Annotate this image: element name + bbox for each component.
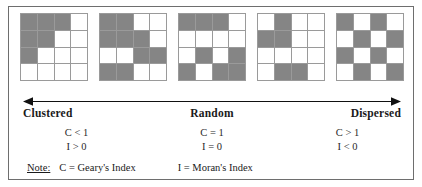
grid-cell-empty xyxy=(371,31,388,48)
grid-clustered-1 xyxy=(20,13,88,81)
grid-cell-filled xyxy=(387,31,404,48)
grid-cell-filled xyxy=(100,31,117,48)
grid-cell-empty xyxy=(55,31,72,48)
formula-row-geary: C < 1 C = 1 C > 1 xyxy=(9,127,415,141)
formula-row-moran: I > 0 I = 0 I < 0 xyxy=(9,141,415,155)
grid-cell-empty xyxy=(258,64,275,81)
grid-cell-empty xyxy=(308,64,325,81)
grid-cell-empty xyxy=(292,14,309,31)
grid-cell-empty xyxy=(213,31,230,48)
grid-cell-filled xyxy=(179,14,196,31)
double-headed-arrow xyxy=(23,96,401,107)
grid-cell-filled xyxy=(213,64,230,81)
grid-cell-filled xyxy=(196,48,213,65)
grid-cell-empty xyxy=(71,64,88,81)
grid-cell-empty xyxy=(71,31,88,48)
grid-cell-empty xyxy=(213,48,230,65)
grid-cell-empty xyxy=(354,14,371,31)
grid-cell-filled xyxy=(100,64,117,81)
grid-cell-empty xyxy=(337,31,354,48)
grid-cell-empty xyxy=(134,64,151,81)
right-arrowhead xyxy=(391,97,401,106)
grid-cell-empty xyxy=(150,14,167,31)
grid-cell-empty xyxy=(179,48,196,65)
grid-cell-empty xyxy=(179,31,196,48)
grid-cell-filled xyxy=(117,31,134,48)
grid-cell-filled xyxy=(354,31,371,48)
grid-cell-empty xyxy=(71,14,88,31)
grid-cell-filled xyxy=(337,14,354,31)
grid-cell-empty xyxy=(354,48,371,65)
axis-label-row: Clustered Random Dispersed xyxy=(9,107,415,122)
grid-cell-empty xyxy=(55,64,72,81)
figure-frame: Clustered Random Dispersed C < 1 C = 1 C… xyxy=(8,6,414,180)
note-label: Note: xyxy=(27,162,50,173)
grid-random xyxy=(178,13,246,81)
grid-cell-empty xyxy=(196,64,213,81)
note-moran-definition: I = Moran's Index xyxy=(178,162,253,173)
grid-cell-empty xyxy=(117,48,134,65)
grid-cell-empty xyxy=(150,31,167,48)
grid-cell-empty xyxy=(196,31,213,48)
grid-clustered-2 xyxy=(99,13,167,81)
grid-cell-filled xyxy=(275,31,292,48)
grid-cell-filled xyxy=(134,31,151,48)
grid-cell-empty xyxy=(308,31,325,48)
grid-cell-filled xyxy=(371,48,388,65)
grid-cell-empty xyxy=(292,48,309,65)
grid-cell-filled xyxy=(117,14,134,31)
label-dispersed: Dispersed xyxy=(351,107,401,119)
grid-cell-empty xyxy=(275,48,292,65)
left-arrowhead xyxy=(23,97,33,106)
grid-cell-filled xyxy=(196,14,213,31)
grid-cell-filled xyxy=(337,48,354,65)
grid-cell-filled xyxy=(387,64,404,81)
note-row: Note: C = Geary's Index I = Moran's Inde… xyxy=(27,159,407,175)
grid-cell-empty xyxy=(371,64,388,81)
grid-cell-filled xyxy=(150,48,167,65)
grid-cell-filled xyxy=(100,14,117,31)
grid-cell-filled xyxy=(55,14,72,31)
grid-cell-filled xyxy=(179,64,196,81)
grid-cell-filled xyxy=(134,48,151,65)
grid-cell-filled xyxy=(354,64,371,81)
grid-cell-empty xyxy=(308,48,325,65)
grid-dispersed-1 xyxy=(257,13,325,81)
grid-cell-empty xyxy=(387,48,404,65)
grid-cell-filled xyxy=(117,64,134,81)
grid-cell-empty xyxy=(229,31,246,48)
formula-dispersed-c: C > 1 xyxy=(280,127,415,138)
grid-cell-empty xyxy=(134,14,151,31)
grid-cell-empty xyxy=(258,14,275,31)
grids-row xyxy=(9,13,415,87)
grid-cell-empty xyxy=(229,14,246,31)
grid-cell-empty xyxy=(337,64,354,81)
grid-cell-empty xyxy=(387,14,404,31)
grid-cell-empty xyxy=(258,48,275,65)
grid-cell-filled xyxy=(229,64,246,81)
grid-cell-filled xyxy=(371,14,388,31)
grid-cell-filled xyxy=(258,31,275,48)
grid-cell-filled xyxy=(38,31,55,48)
grid-cell-filled xyxy=(21,48,38,65)
grid-cell-filled xyxy=(38,14,55,31)
note-geary-definition: C = Geary's Index xyxy=(59,162,135,173)
grid-cell-filled xyxy=(229,48,246,65)
grid-cell-empty xyxy=(308,14,325,31)
grid-cell-filled xyxy=(21,31,38,48)
grid-cell-empty xyxy=(292,31,309,48)
grid-cell-empty xyxy=(100,48,117,65)
formula-dispersed-i: I < 0 xyxy=(280,141,415,152)
grid-cell-empty xyxy=(71,48,88,65)
grid-cell-empty xyxy=(55,48,72,65)
grid-cell-empty xyxy=(21,64,38,81)
grid-cell-filled xyxy=(292,64,309,81)
grid-cell-filled xyxy=(275,64,292,81)
grid-dispersed-2 xyxy=(336,13,404,81)
grid-cell-filled xyxy=(21,14,38,31)
grid-cell-empty xyxy=(150,64,167,81)
spatial-autocorrelation-figure: Clustered Random Dispersed C < 1 C = 1 C… xyxy=(0,0,422,187)
grid-cell-empty xyxy=(38,48,55,65)
grid-cell-empty xyxy=(38,64,55,81)
grid-cell-filled xyxy=(213,14,230,31)
